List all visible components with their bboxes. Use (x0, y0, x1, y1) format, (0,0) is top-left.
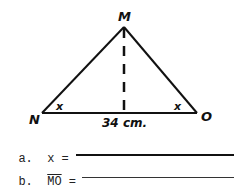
side-mn (42, 27, 124, 113)
vertex-n-label: N (29, 112, 40, 127)
triangle-figure: M N O x x 34 cm. (0, 0, 234, 130)
angle-o-label: x (173, 100, 182, 113)
vertex-m-label: M (118, 9, 131, 24)
answer-a-blank[interactable] (76, 154, 234, 156)
angle-n-label: x (55, 100, 64, 113)
question-b: b. MO = (4, 161, 76, 185)
question-b-equals: = (69, 175, 76, 185)
answer-b-blank[interactable] (82, 177, 234, 178)
base-length-label: 34 cm. (102, 116, 147, 130)
vertex-o-label: O (201, 109, 212, 124)
question-b-segment: MO (47, 175, 61, 185)
side-mo (124, 27, 197, 113)
question-b-letter: b. (18, 175, 32, 185)
